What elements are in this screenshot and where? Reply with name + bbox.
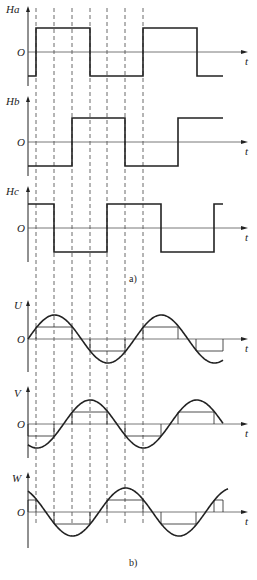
- time-label-hb: t: [245, 146, 248, 157]
- zero-label-u: O: [17, 334, 25, 345]
- time-label-w: t: [245, 516, 248, 527]
- step-approximation-w: [161, 512, 196, 524]
- caption-b: b): [129, 558, 137, 568]
- time-label-v: t: [245, 428, 248, 439]
- waveform-figure: Ha O t Hb O t Hc O t a) U O t V O t W O …: [0, 0, 257, 580]
- y-axis-arrow-icon: [26, 386, 30, 392]
- zero-label-w: O: [17, 507, 25, 518]
- caption-a: a): [129, 274, 137, 284]
- time-label-hc: t: [245, 232, 248, 243]
- label-ha: Ha: [6, 4, 19, 15]
- zero-label-ha: O: [17, 47, 25, 58]
- label-u: U: [14, 300, 22, 311]
- label-hb: Hb: [6, 96, 19, 107]
- step-approximation-v: [178, 412, 214, 424]
- waveform-plot: [0, 0, 257, 580]
- zero-label-hc: O: [17, 223, 25, 234]
- step-approximation-u: [143, 327, 178, 339]
- x-axis-arrow-icon: [241, 510, 248, 514]
- x-axis-arrow-icon: [241, 422, 248, 426]
- y-axis-arrow-icon: [26, 6, 30, 12]
- zero-label-v: O: [17, 419, 25, 430]
- x-axis-arrow-icon: [241, 226, 248, 230]
- step-approximation-u: [90, 339, 125, 351]
- step-approximation-v: [28, 424, 54, 436]
- step-approximation-w: [28, 500, 36, 512]
- x-axis-arrow-icon: [241, 337, 248, 341]
- y-axis-arrow-icon: [26, 186, 30, 192]
- x-axis-arrow-icon: [241, 50, 248, 54]
- time-label-u: t: [245, 343, 248, 354]
- step-approximation-v: [72, 412, 107, 424]
- label-hc: Hc: [6, 186, 19, 197]
- label-v: V: [14, 388, 21, 399]
- x-axis-arrow-icon: [241, 140, 248, 144]
- label-w: W: [12, 473, 21, 484]
- zero-label-hb: O: [17, 137, 25, 148]
- y-axis-arrow-icon: [26, 472, 30, 478]
- step-approximation-w: [214, 500, 223, 512]
- time-label-ha: t: [245, 56, 248, 67]
- y-axis-arrow-icon: [26, 96, 30, 102]
- step-approximation-u: [196, 339, 223, 351]
- y-axis-arrow-icon: [26, 300, 30, 306]
